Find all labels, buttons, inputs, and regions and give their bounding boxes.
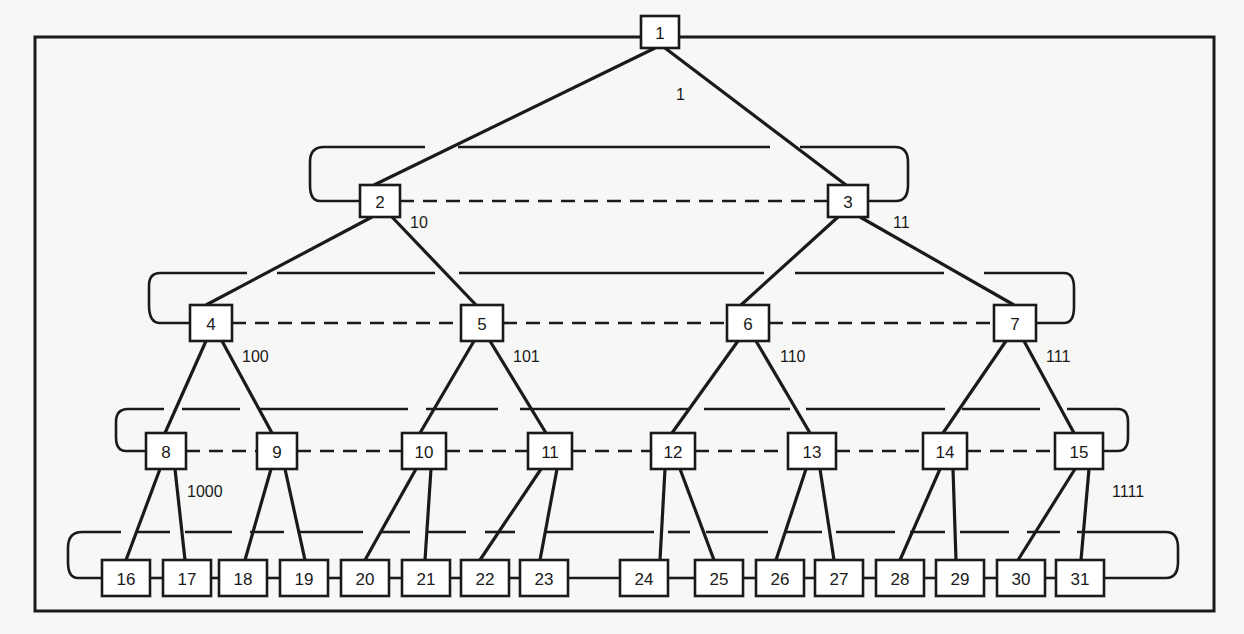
edge-label-100: 100 bbox=[242, 348, 269, 365]
node-label: 13 bbox=[803, 443, 822, 462]
edge-label-111: 111 bbox=[1046, 348, 1070, 365]
node-label: 16 bbox=[117, 570, 136, 589]
tree-node-3: 3 bbox=[828, 185, 868, 217]
tree-node-17: 17 bbox=[163, 560, 211, 596]
tree-node-18: 18 bbox=[219, 560, 267, 596]
tree-node-26: 26 bbox=[756, 560, 804, 596]
node-label: 3 bbox=[843, 193, 852, 212]
tree-node-19: 19 bbox=[280, 560, 328, 596]
edge-label-1000: 1000 bbox=[187, 483, 223, 500]
node-label: 14 bbox=[936, 443, 955, 462]
bus-level-3 bbox=[149, 273, 1074, 323]
node-label: 10 bbox=[415, 443, 434, 462]
node-label: 25 bbox=[710, 570, 729, 589]
edge-label-10: 10 bbox=[410, 214, 428, 231]
tree-node-12: 12 bbox=[651, 433, 695, 469]
node-label: 5 bbox=[477, 315, 486, 334]
binary-tree-diagram: 1234567891011121314151617181920212223242… bbox=[0, 0, 1244, 634]
tree-node-14: 14 bbox=[923, 433, 967, 469]
node-label: 9 bbox=[272, 443, 281, 462]
node-label: 17 bbox=[178, 570, 197, 589]
tree-node-30: 30 bbox=[997, 560, 1045, 596]
node-label: 2 bbox=[375, 193, 384, 212]
node-label: 30 bbox=[1012, 570, 1031, 589]
tree-edges bbox=[126, 48, 1089, 560]
node-label: 7 bbox=[1010, 315, 1019, 334]
node-label: 20 bbox=[356, 570, 375, 589]
node-label: 27 bbox=[830, 570, 849, 589]
tree-node-10: 10 bbox=[402, 433, 446, 469]
node-label: 18 bbox=[234, 570, 253, 589]
level-links-dashed bbox=[186, 201, 1055, 451]
tree-node-31: 31 bbox=[1056, 560, 1104, 596]
node-label: 24 bbox=[635, 570, 654, 589]
tree-node-28: 28 bbox=[876, 560, 924, 596]
edge-label-1: 1 bbox=[676, 86, 685, 103]
tree-node-7: 7 bbox=[994, 305, 1036, 341]
node-label: 15 bbox=[1070, 443, 1089, 462]
node-label: 6 bbox=[743, 315, 752, 334]
tree-node-11: 11 bbox=[528, 433, 572, 469]
tree-node-25: 25 bbox=[695, 560, 743, 596]
node-label: 4 bbox=[206, 315, 215, 334]
node-label: 1 bbox=[655, 24, 664, 43]
node-label: 11 bbox=[541, 443, 559, 462]
node-label: 29 bbox=[951, 570, 970, 589]
node-label: 31 bbox=[1071, 570, 1090, 589]
tree-node-6: 6 bbox=[727, 305, 769, 341]
node-label: 8 bbox=[161, 443, 170, 462]
tree-node-5: 5 bbox=[461, 305, 503, 341]
tree-node-21: 21 bbox=[402, 560, 450, 596]
tree-node-22: 22 bbox=[461, 560, 509, 596]
tree-node-23: 23 bbox=[520, 560, 568, 596]
edge-label-11: 11 bbox=[893, 214, 910, 231]
node-label: 21 bbox=[417, 570, 436, 589]
node-label: 26 bbox=[771, 570, 790, 589]
tree-node-27: 27 bbox=[815, 560, 863, 596]
tree-node-2: 2 bbox=[360, 185, 400, 217]
node-label: 23 bbox=[535, 570, 554, 589]
edge-label-1111: 1111 bbox=[1112, 483, 1144, 500]
tree-node-20: 20 bbox=[341, 560, 389, 596]
tree-node-29: 29 bbox=[936, 560, 984, 596]
node-label: 12 bbox=[664, 443, 683, 462]
tree-node-1: 1 bbox=[641, 16, 679, 48]
tree-node-9: 9 bbox=[257, 433, 297, 469]
tree-node-16: 16 bbox=[102, 560, 150, 596]
node-label: 19 bbox=[295, 570, 314, 589]
tree-node-15: 15 bbox=[1055, 433, 1103, 469]
edge-label-110: 110 bbox=[780, 348, 806, 365]
tree-node-13: 13 bbox=[788, 433, 836, 469]
tree-node-8: 8 bbox=[146, 433, 186, 469]
node-label: 22 bbox=[476, 570, 495, 589]
node-label: 28 bbox=[891, 570, 910, 589]
edge-label-101: 101 bbox=[513, 348, 540, 365]
tree-node-24: 24 bbox=[620, 560, 668, 596]
tree-node-4: 4 bbox=[190, 305, 232, 341]
